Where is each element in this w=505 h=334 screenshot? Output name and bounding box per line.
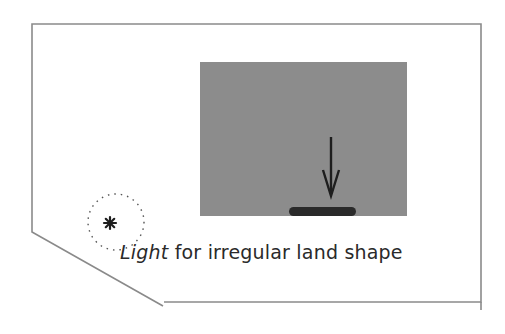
diagram-canvas (0, 0, 505, 334)
wall-opening-bar (289, 207, 356, 216)
caption-emphasis: Light (120, 241, 168, 263)
star-icon (104, 217, 116, 229)
diagram-caption: Light for irregular land shape (120, 241, 403, 263)
building-block (200, 62, 407, 216)
caption-text: for irregular land shape (168, 241, 402, 263)
